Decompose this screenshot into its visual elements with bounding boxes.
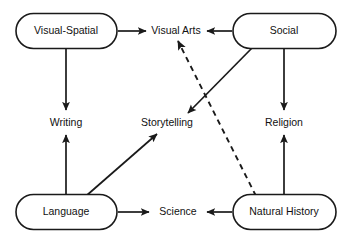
node-social-label: Social [270,24,299,36]
node-language-label: Language [43,205,90,217]
node-visual-spatial[interactable]: Visual-Spatial [16,14,117,49]
node-language[interactable]: Language [16,195,117,230]
node-social[interactable]: Social [233,14,336,49]
node-visual-arts-label: Visual Arts [151,24,200,36]
node-science-label: Science [159,205,197,217]
diagram-canvas: Visual-Spatial Visual Arts Social Writin… [0,0,349,244]
node-writing-label: Writing [50,116,83,128]
edge-social-to-storytelling [188,48,252,113]
node-religion-label: Religion [265,116,303,128]
node-natural-history-label: Natural History [249,205,319,217]
node-storytelling-label: Storytelling [141,116,193,128]
node-layer: Visual-Spatial Visual Arts Social Writin… [16,14,336,230]
diagram-svg: Visual-Spatial Visual Arts Social Writin… [0,0,349,244]
node-visual-spatial-label: Visual-Spatial [34,24,98,36]
node-natural-history[interactable]: Natural History [233,195,336,230]
edge-language-to-storytelling [86,134,157,196]
